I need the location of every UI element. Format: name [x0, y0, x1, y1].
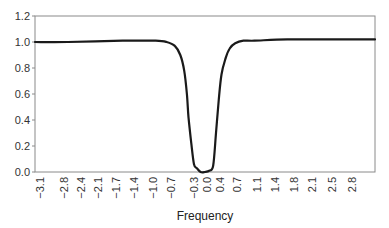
x-tick-label: −1.0 [147, 177, 159, 199]
x-tick-label: −0.3 [188, 177, 200, 199]
x-tick-label: −2.4 [75, 177, 87, 199]
x-tick-label: −2.8 [58, 177, 70, 199]
chart: 0.00.20.40.60.81.01.2 −3.1−2.8−2.4−2.1−1… [0, 0, 389, 228]
x-tick-label: −1.7 [110, 177, 122, 199]
x-tick-label: −0.7 [165, 177, 177, 199]
x-tick-label: 2.5 [326, 177, 338, 192]
x-tick-label: 1.4 [269, 177, 281, 192]
x-tick-label: 0.0 [201, 177, 213, 192]
x-tick-label: 1.8 [288, 177, 300, 192]
y-tick-label: 0.6 [15, 88, 30, 100]
y-tick-label: 1.0 [15, 36, 30, 48]
x-tick-label: −2.1 [92, 177, 104, 199]
x-tick-label: 2.1 [306, 177, 318, 192]
x-tick-label: −1.4 [128, 177, 140, 199]
x-tick-label: 0.7 [231, 177, 243, 192]
x-tick-label: 1.1 [251, 177, 263, 192]
x-tick-label: −3.1 [34, 177, 46, 199]
y-axis: 0.00.20.40.60.81.01.2 [15, 10, 35, 178]
x-axis: −3.1−2.8−2.4−2.1−1.7−1.4−1.0−0.7−0.30.00… [34, 177, 358, 199]
y-tick-label: 0.4 [15, 114, 30, 126]
y-tick-label: 0.2 [15, 140, 30, 152]
y-tick-label: 0.0 [15, 166, 30, 178]
x-tick-label: 0.4 [214, 177, 226, 192]
y-tick-label: 0.8 [15, 62, 30, 74]
x-axis-title: Frequency [177, 209, 234, 223]
y-tick-label: 1.2 [15, 10, 30, 22]
x-tick-label: 2.8 [346, 177, 358, 192]
